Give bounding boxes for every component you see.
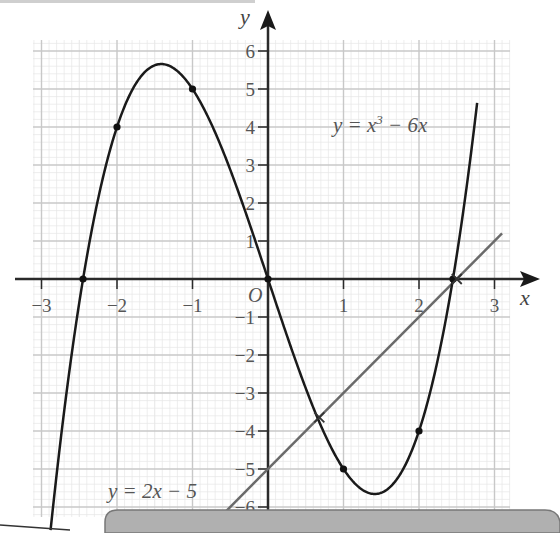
x-tick-label: −1 xyxy=(182,295,202,316)
data-point xyxy=(79,275,86,282)
origin-label: O xyxy=(248,284,262,306)
y-tick-label: −1 xyxy=(235,307,255,328)
callout-pointer xyxy=(0,525,70,530)
data-point xyxy=(189,85,196,92)
y-tick-label: 6 xyxy=(246,41,256,62)
line-equation-label: y = 2x − 5 xyxy=(106,479,197,503)
axes xyxy=(15,10,540,528)
x-tick-label: 3 xyxy=(490,295,500,316)
data-point xyxy=(113,123,120,130)
x-tick-label: 1 xyxy=(339,295,349,316)
y-axis-label: y xyxy=(238,4,250,29)
data-point xyxy=(415,427,422,434)
cubic-equation-label: y = x3 − 6x xyxy=(331,112,428,137)
x-tick-label: −3 xyxy=(31,295,51,316)
x-axis-label: x xyxy=(519,285,530,310)
y-tick-label: −2 xyxy=(235,345,255,366)
y-tick-label: −5 xyxy=(235,459,255,480)
cubic-eq-prefix: y = x xyxy=(331,113,377,137)
data-point xyxy=(264,275,271,282)
y-tick-label: 2 xyxy=(246,193,256,214)
data-point xyxy=(340,465,347,472)
y-tick-label: −3 xyxy=(235,383,255,404)
footer-box xyxy=(105,510,560,533)
graph-canvas: −3−2−1123654321−1−2−3−4−5−6 x y O y = x3… xyxy=(0,0,560,533)
y-tick-label: 3 xyxy=(246,155,256,176)
y-tick-label: −4 xyxy=(235,421,256,442)
y-tick-label: 4 xyxy=(246,117,256,138)
x-tick-label: −2 xyxy=(107,295,127,316)
y-tick-label: 5 xyxy=(246,79,256,100)
cubic-eq-suffix: − 6x xyxy=(383,113,428,137)
